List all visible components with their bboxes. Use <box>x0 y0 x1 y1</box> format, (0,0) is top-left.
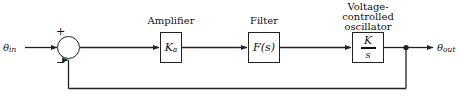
amplifier-gain-subscript: a <box>173 45 177 54</box>
vco-block[interactable]: K s <box>352 32 384 63</box>
vco-transfer-function: K s <box>361 35 376 59</box>
amplifier-caption: Amplifier <box>131 16 211 27</box>
filter-block[interactable]: F(s) <box>248 32 280 63</box>
filter-transfer-function: F(s) <box>253 42 275 53</box>
vco-caption: Voltage- controlled oscillator <box>328 2 408 33</box>
vco-numerator: K <box>362 35 374 47</box>
input-signal-label: θin <box>3 42 16 54</box>
output-label-subscript: out <box>443 45 455 54</box>
amplifier-block[interactable]: Ka <box>160 32 182 63</box>
summing-junction-minus-sign: − <box>56 57 65 68</box>
block-diagram-canvas: + − θin θout Amplifier Ka Filter F(s) Vo… <box>0 0 464 106</box>
output-signal-label: θout <box>437 42 455 54</box>
amplifier-gain-expression: Ka <box>165 42 178 54</box>
input-label-subscript: in <box>9 45 16 54</box>
summing-junction-plus-sign: + <box>56 26 65 37</box>
vco-denominator: s <box>363 49 372 60</box>
amplifier-gain-base: K <box>165 41 173 54</box>
filter-caption: Filter <box>224 16 304 27</box>
